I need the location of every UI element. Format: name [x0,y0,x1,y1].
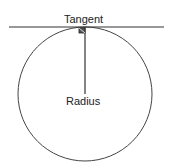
radius-label: Radius [66,95,101,107]
right-angle-marker-icon [79,28,85,33]
tangent-label: Tangent [64,13,103,25]
tangent-radius-diagram: Tangent Radius [0,0,172,166]
